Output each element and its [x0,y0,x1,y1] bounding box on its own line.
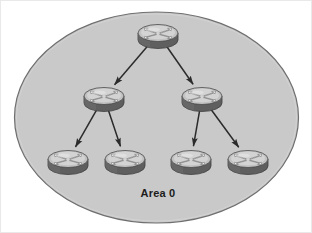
router-icon [171,151,211,175]
router-icon [84,88,124,112]
router-access-2[interactable] [105,151,145,175]
router-dist-right[interactable] [182,88,222,112]
diagram-canvas: Area 0 [0,0,312,233]
router-access-1[interactable] [48,151,88,175]
router-icon [228,151,268,175]
router-icon [48,151,88,175]
network-diagram: Area 0 [1,1,312,233]
router-access-4[interactable] [228,151,268,175]
router-icon [105,151,145,175]
router-icon [182,88,222,112]
router-access-3[interactable] [171,151,211,175]
area-label: Area 0 [141,187,176,199]
router-icon [138,25,178,49]
router-dist-left[interactable] [84,88,124,112]
router-core[interactable] [138,25,178,49]
